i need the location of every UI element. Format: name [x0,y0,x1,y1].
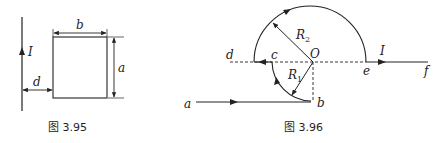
current-arrow-icon [230,99,238,105]
label-current: I [379,44,385,58]
height-label: a [118,61,125,75]
label-a: a [184,97,191,111]
width-label: b [76,18,84,32]
label-center-o: O [310,47,320,61]
caption-3-96: 图 3.96 [284,121,323,134]
label-f: f [423,64,431,78]
label-d: d [226,48,234,62]
physics-figures: I b a d 图 3.95 [0,0,444,143]
label-b: b [317,96,325,110]
caption-3-95: 图 3.95 [48,121,87,134]
current-arrow-icon [378,59,386,65]
figure-3-95: I b a d 图 3.95 [19,17,125,134]
current-arrow-icon [19,47,25,55]
label-c: c [271,48,278,62]
current-arrow-icon [258,59,266,65]
rectangular-loop [53,37,107,98]
label-r2-subscript: 2 [305,35,310,44]
current-arrow-icon [283,9,291,15]
current-label: I [27,45,33,59]
distance-label: d [33,75,41,89]
label-r2: R [295,28,305,42]
label-r1: R [287,68,297,82]
figure-3-96: a b c d e f O I R 2 R 1 图 3.96 [184,6,431,134]
label-r1-subscript: 1 [297,75,302,84]
label-e: e [363,64,370,78]
